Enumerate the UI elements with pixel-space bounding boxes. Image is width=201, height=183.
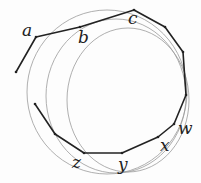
label-b: b: [78, 29, 89, 46]
vertex-dot: [173, 123, 176, 126]
vertex-dot: [157, 136, 160, 139]
vertex-dot: [15, 71, 18, 74]
vertex-dot: [83, 152, 86, 155]
label-z: z: [72, 154, 81, 171]
vertex-dot: [185, 94, 188, 97]
vertex-dot: [34, 103, 37, 106]
label-x: x: [160, 137, 170, 154]
label-y: y: [118, 156, 128, 173]
vertex-dot: [182, 51, 185, 54]
label-w: w: [178, 120, 193, 137]
vertex-dot: [54, 133, 57, 136]
label-c: c: [128, 10, 138, 27]
vertex-dot: [35, 36, 38, 39]
vertex-dot: [164, 26, 167, 29]
vertex-dots: [15, 9, 188, 155]
label-a: a: [22, 22, 32, 39]
diagram-canvas: a b c w x y z: [0, 0, 201, 183]
